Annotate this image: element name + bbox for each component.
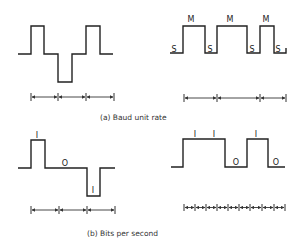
bit-label: O [62, 159, 68, 168]
panel-a-left-waveform [18, 26, 113, 82]
panel-b-right-waveform [171, 139, 285, 167]
baud-vs-bps-diagram: M M M S S S S (a) Baud unit rate I O I [0, 0, 302, 250]
panel-a-right-waveform [170, 26, 286, 53]
bit-label: O [273, 158, 279, 167]
mark-label: M [188, 15, 195, 24]
bit-label: O [233, 158, 239, 167]
panel-b-right-labels: I I O I O [194, 130, 279, 167]
mark-label: M [263, 15, 270, 24]
space-label: S [171, 45, 176, 54]
panel-b-right-ruler [184, 204, 285, 211]
space-label: S [275, 45, 280, 54]
caption-a: (a) Baud unit rate [100, 113, 167, 122]
panel-a-right-ruler [184, 94, 286, 102]
bit-label: I [36, 131, 38, 140]
panel-b-left-ruler [31, 206, 115, 214]
panel-b-left-waveform [18, 140, 115, 196]
space-label: S [207, 45, 212, 54]
mark-label: M [227, 15, 234, 24]
caption-b: (b) Bits per second [87, 229, 158, 238]
bit-label: I [255, 130, 257, 139]
bit-label: I [92, 186, 94, 195]
panel-a-right-labels: M M M S S S S [171, 15, 280, 54]
space-label: S [249, 45, 254, 54]
panel-a-left-ruler [31, 93, 114, 101]
bit-label: I [213, 130, 215, 139]
bit-label: I [194, 130, 196, 139]
